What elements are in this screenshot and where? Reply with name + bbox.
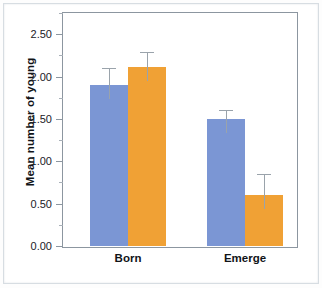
y-axis-tick	[56, 204, 63, 205]
y-axis-tick-label: 0.00	[31, 240, 52, 252]
y-axis-minor-tick	[59, 55, 63, 56]
bar-emerge-blue	[207, 119, 245, 246]
y-axis-minor-tick	[59, 140, 63, 141]
error-bar-cap-emerge-blue	[219, 110, 233, 111]
error-bar-stem-emerge-orange	[264, 174, 265, 209]
plot-area: 0.000.501.001.502.002.50	[63, 13, 297, 247]
y-axis-tick-label: 1.50	[31, 113, 52, 125]
y-axis-minor-tick	[59, 182, 63, 183]
figure-container: Mean number of young 0.000.501.001.502.0…	[0, 0, 322, 288]
y-axis-tick	[56, 119, 63, 120]
error-bar-stem-born-blue	[109, 68, 110, 99]
plot-frame: 0.000.501.001.502.002.50	[62, 12, 298, 248]
y-axis-tick	[56, 161, 63, 162]
bar-born-orange	[128, 67, 166, 246]
error-bar-stem-emerge-blue	[226, 110, 227, 132]
error-bar-cap-born-blue	[102, 68, 116, 69]
y-axis-tick	[56, 77, 63, 78]
y-axis-tick-label: 1.00	[31, 155, 52, 167]
y-axis-minor-tick	[59, 225, 63, 226]
y-axis-tick-label: 2.50	[31, 28, 52, 40]
error-bar-cap-emerge-orange	[257, 174, 271, 175]
y-axis-minor-tick	[59, 13, 63, 14]
y-axis-tick	[56, 34, 63, 35]
x-axis-group-label-born: Born	[115, 252, 142, 264]
y-axis-tick	[56, 246, 63, 247]
bar-born-blue	[90, 85, 128, 246]
y-axis-tick-label: 2.00	[31, 71, 52, 83]
y-axis-minor-tick	[59, 98, 63, 99]
y-axis-tick-label: 0.50	[31, 198, 52, 210]
error-bar-stem-born-orange	[147, 52, 148, 81]
error-bar-cap-born-orange	[140, 52, 154, 53]
x-axis-group-label-emerge: Emerge	[224, 252, 266, 264]
